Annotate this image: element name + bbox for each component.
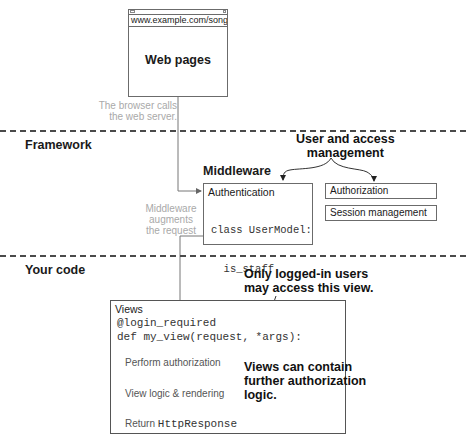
further-authorization-callout: Views can contain further authorization … xyxy=(244,360,366,402)
browser-url-bar[interactable]: www.example.com/songs/ xyxy=(129,15,227,27)
browser-menu-icon xyxy=(130,10,135,13)
logged-in-callout: Only logged-in users may access this vie… xyxy=(244,267,373,295)
step-return: Return HttpResponse xyxy=(125,418,237,430)
authentication-label: Authentication xyxy=(208,186,308,198)
step-view-logic: View logic & rendering xyxy=(125,388,224,399)
your-code-divider xyxy=(0,255,466,257)
browser-page-title: Web pages xyxy=(129,53,227,67)
login-required-decorator: @login_required xyxy=(117,317,216,329)
browser-calls-note: The browser calls the web server. xyxy=(95,100,177,122)
browser-window: www.example.com/songs/ Web pages xyxy=(128,9,228,97)
authorization-box: Authorization xyxy=(325,183,437,199)
browser-close-icon xyxy=(223,10,226,13)
browser-titlebar xyxy=(129,10,227,15)
framework-divider xyxy=(0,130,466,132)
section-your-code: Your code xyxy=(25,263,85,277)
section-framework: Framework xyxy=(25,138,92,152)
user-access-callout: User and access management xyxy=(296,132,395,160)
middleware-title: Middleware xyxy=(203,164,271,178)
session-management-box: Session management xyxy=(325,205,437,221)
middleware-box: Authentication class UserModel: is_staff… xyxy=(203,183,313,245)
views-label: Views xyxy=(115,303,143,315)
middleware-augments-note: Middleware augments the request xyxy=(143,203,199,236)
step-perform-authorization: Perform authorization xyxy=(125,357,221,368)
view-def-line: def my_view(request, *args): xyxy=(117,331,302,343)
